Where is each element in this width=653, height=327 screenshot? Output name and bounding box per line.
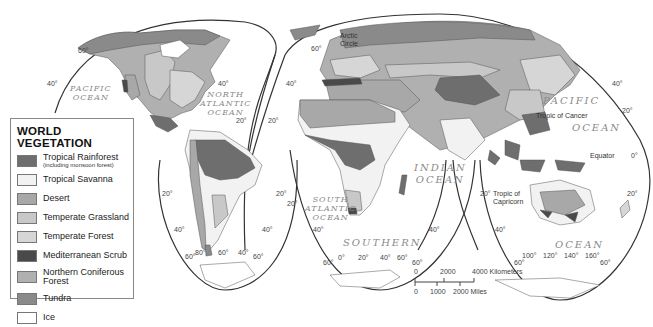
swatch-tundra — [17, 293, 37, 305]
deg-label: 40° — [218, 80, 229, 87]
legend-label: Temperate Grassland — [43, 213, 129, 222]
label-tropic-of-capricorn: Tropic of Capricorn — [493, 190, 523, 205]
deg-label: 60° — [78, 47, 89, 54]
deg-label: 40° — [286, 80, 297, 87]
scale-ruler — [414, 277, 484, 287]
ocean-label-pacific-east: PACIFIC — [543, 95, 600, 107]
deg-label: 60° — [323, 259, 334, 266]
ocean-label-pacific-east-2: OCEAN — [572, 122, 621, 134]
legend-label: Tundra — [43, 294, 71, 303]
legend-item-tundra: Tundra — [17, 289, 133, 308]
ocean-label-north-atlantic: NORTH ATLANTIC OCEAN — [200, 90, 251, 118]
deg-label: 60° — [514, 259, 525, 266]
deg-label: 60° — [412, 259, 423, 266]
southeast-asia — [488, 140, 585, 172]
legend-label: Tropical Savanna — [43, 175, 113, 184]
legend-label-line2: Forest — [43, 276, 69, 286]
deg-label: 40° — [429, 226, 440, 233]
deg-label: 20° — [236, 117, 247, 124]
legend-item-ice: Ice — [17, 308, 133, 327]
deg-label: 20° — [358, 254, 369, 261]
legend-item-desert: Desert — [17, 189, 133, 208]
deg-label: 20° — [162, 190, 173, 197]
scale-km-2000: 2000 — [440, 268, 456, 275]
ocean-label-pacific-west: PACIFIC OCEAN — [70, 84, 112, 102]
deg-label: 20° — [622, 107, 633, 114]
legend-sublabel: (including monsoon forest) — [43, 162, 118, 168]
legend-title: WORLD VEGETATION — [17, 125, 133, 149]
legend-label: Tropical Rainforest — [43, 152, 118, 162]
greenland — [290, 25, 320, 40]
swatch-tropical-rainforest — [17, 155, 37, 167]
deg-label: 60° — [218, 249, 229, 256]
legend-item-tropical-savanna: Tropical Savanna — [17, 170, 133, 189]
swatch-ice — [17, 312, 37, 324]
swatch-temperate-grassland — [17, 212, 37, 224]
legend-label: Mediterranean Scrub — [43, 251, 127, 260]
deg-label: 60° — [185, 253, 196, 260]
legend-item-northern-coniferous-forest: Northern ConiferousForest — [17, 265, 133, 289]
scale-mi-2000: 2000 Miles — [453, 288, 487, 295]
deg-label: 140° — [564, 252, 578, 259]
australia — [530, 180, 630, 225]
deg-label: 60° — [600, 259, 611, 266]
deg-label: 60° — [397, 254, 408, 261]
legend-label: Desert — [43, 194, 70, 203]
deg-label: 80° — [195, 249, 206, 256]
deg-label: 0° — [338, 254, 345, 261]
deg-label: 40° — [238, 249, 249, 256]
deg-label: 60° — [253, 253, 264, 260]
legend-item-temperate-grassland: Temperate Grassland — [17, 208, 133, 227]
swatch-tropical-savanna — [17, 174, 37, 186]
deg-label: 0° — [631, 152, 638, 159]
deg-label: 120° — [543, 252, 557, 259]
deg-label: 20° — [480, 190, 491, 197]
deg-label: 60° — [311, 45, 322, 52]
ocean-label-southeast: OCEAN — [555, 239, 604, 251]
deg-label: 40° — [174, 226, 185, 233]
scale-bar: 0 2000 4000 Kilometers 0 1000 2000 Miles — [408, 268, 523, 298]
scale-km-4000: 4000 Kilometers — [472, 268, 523, 275]
swatch-desert — [17, 193, 37, 205]
deg-label: 40° — [495, 226, 506, 233]
deg-label: 40° — [313, 226, 324, 233]
ocean-label-indian: INDIAN OCEAN — [414, 162, 467, 185]
legend-item-tropical-rainforest: Tropical Rainforest(including monsoon fo… — [17, 151, 133, 170]
swatch-mediterranean-scrub — [17, 250, 37, 262]
deg-label: 20° — [627, 190, 638, 197]
antarctica — [200, 262, 600, 298]
deg-label: 100° — [522, 252, 536, 259]
ocean-label-south-atlantic: SOUTH ATLANTIC OCEAN — [305, 195, 356, 223]
label-tropic-of-cancer: Tropic of Cancer — [536, 112, 587, 119]
deg-label: 40° — [380, 254, 391, 261]
label-equator: Equator — [590, 152, 615, 159]
deg-label: 20° — [268, 117, 279, 124]
scale-mi-0: 0 — [414, 288, 418, 295]
swatch-temperate-forest — [17, 231, 37, 243]
deg-label: 40° — [262, 226, 273, 233]
legend-item-temperate-forest: Temperate Forest — [17, 227, 133, 246]
deg-label: 160° — [585, 252, 599, 259]
deg-label: 20° — [276, 190, 287, 197]
scale-mi-1000: 1000 — [430, 288, 446, 295]
legend-label: Temperate Forest — [43, 232, 114, 241]
legend-label: Ice — [43, 313, 55, 322]
deg-label: 40° — [47, 80, 58, 87]
swatch-northern-coniferous-forest — [17, 271, 37, 283]
scale-km-0: 0 — [414, 268, 418, 275]
deg-label: 40° — [612, 80, 623, 87]
label-arctic-circle: Arctic Circle — [340, 32, 358, 47]
legend: WORLD VEGETATION Tropical Rainforest(inc… — [10, 118, 134, 299]
ocean-label-southern: SOUTHERN — [343, 237, 421, 249]
legend-item-mediterranean-scrub: Mediterranean Scrub — [17, 246, 133, 265]
deg-label: 20° — [287, 200, 298, 207]
